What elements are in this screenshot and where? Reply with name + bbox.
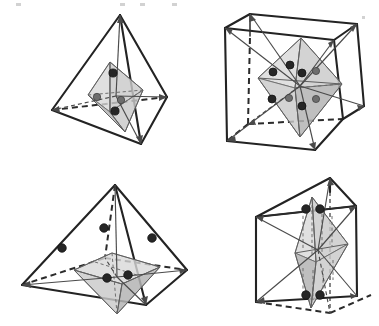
polyhedra-figure: [0, 0, 379, 326]
figure-canvas: [0, 0, 379, 326]
